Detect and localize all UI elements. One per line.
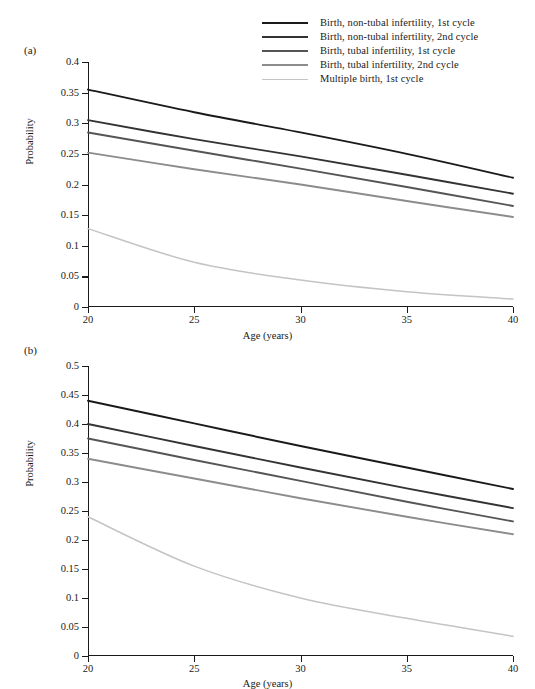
x-axis-tick [88, 656, 89, 662]
x-axis-tick [407, 307, 408, 313]
y-axis-tick-label: 0 [74, 302, 79, 313]
y-axis-tick-label: 0.5 [66, 361, 79, 372]
legend-line-swatch [262, 36, 308, 38]
y-axis-tick-label: 0.1 [66, 593, 79, 604]
y-axis-tick-label: 0.05 [61, 622, 79, 633]
panel-b-tag: (b) [24, 344, 37, 356]
panel-b-plot-area: 00.050.10.150.20.250.30.350.40.450.52025… [88, 366, 513, 656]
y-axis-tick-label: 0.35 [61, 87, 79, 98]
x-axis-tick-label: 25 [189, 664, 200, 675]
series-line [88, 517, 513, 636]
series-line [88, 439, 513, 522]
y-axis-tick-label: 0.15 [61, 210, 79, 221]
series-line [88, 90, 513, 178]
x-axis-tick [513, 307, 514, 313]
y-axis-tick-label: 0.2 [66, 179, 79, 190]
series-line [88, 120, 513, 194]
y-axis-tick-label: 0.4 [66, 57, 79, 68]
x-axis-tick-label: 40 [508, 664, 519, 675]
panel-a: (a) Probability Age (years) 00.050.10.15… [0, 40, 535, 330]
series-line [88, 132, 513, 206]
x-axis-tick [194, 656, 195, 662]
y-axis-tick-label: 0.3 [66, 477, 79, 488]
series-lines [88, 366, 513, 656]
x-axis-tick-label: 30 [295, 315, 306, 326]
y-axis-tick-label: 0 [74, 651, 79, 662]
series-line [88, 229, 513, 299]
x-axis-tick-label: 35 [402, 315, 413, 326]
x-axis-tick [407, 656, 408, 662]
x-axis-tick-label: 40 [508, 315, 519, 326]
y-axis-tick-label: 0.25 [61, 506, 79, 517]
legend-item-label: Birth, non-tubal infertility, 1st cycle [320, 16, 475, 30]
x-axis-tick-label: 30 [295, 664, 306, 675]
legend-line-swatch [262, 22, 308, 24]
series-line [88, 424, 513, 508]
x-axis-tick [301, 307, 302, 313]
y-axis-tick-label: 0.1 [66, 241, 79, 252]
y-axis-tick-label: 0.3 [66, 118, 79, 129]
y-axis-tick-label: 0.35 [61, 448, 79, 459]
panel-a-plot-area: 00.050.10.150.20.250.30.350.42025303540 [88, 62, 513, 307]
y-axis-tick-label: 0.2 [66, 535, 79, 546]
x-axis-tick [301, 656, 302, 662]
x-axis-tick-label: 25 [189, 315, 200, 326]
y-axis-tick-label: 0.4 [66, 419, 79, 430]
x-axis-tick-label: 20 [83, 315, 94, 326]
x-axis-tick-label: 20 [83, 664, 94, 675]
panel-a-tag: (a) [24, 44, 36, 56]
y-axis-tick-label: 0.15 [61, 564, 79, 575]
y-axis-tick-label: 0.45 [61, 390, 79, 401]
y-axis-tick-label: 0.25 [61, 149, 79, 160]
panel-b-y-axis-label: Probability [24, 421, 35, 507]
x-axis-tick-label: 35 [402, 664, 413, 675]
y-axis-tick-label: 0.05 [61, 271, 79, 282]
panel-b: (b) Probability Age (years) 00.050.10.15… [0, 340, 535, 686]
x-axis-tick [88, 307, 89, 313]
series-line [88, 401, 513, 489]
legend-item: Birth, non-tubal infertility, 1st cycle [262, 16, 532, 30]
x-axis-tick [194, 307, 195, 313]
series-lines [88, 62, 513, 307]
panel-b-x-axis-label: Age (years) [0, 678, 535, 689]
x-axis-tick [513, 656, 514, 662]
panel-a-y-axis-label: Probability [24, 99, 35, 185]
